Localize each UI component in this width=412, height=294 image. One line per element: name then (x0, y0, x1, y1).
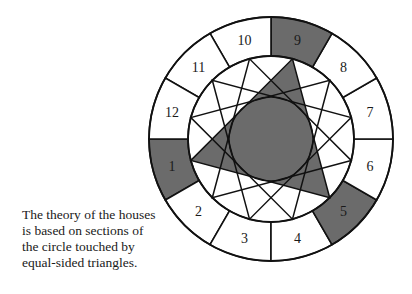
house-label-9: 9 (294, 33, 301, 48)
house-label-7: 7 (367, 105, 374, 120)
caption-line: is based on sections of (22, 223, 187, 239)
house-label-1: 1 (168, 159, 175, 174)
house-label-11: 11 (192, 60, 205, 75)
house-label-6: 6 (367, 159, 374, 174)
caption: The theory of the houses is based on sec… (22, 207, 187, 271)
house-label-10: 10 (237, 33, 251, 48)
house-label-3: 3 (241, 231, 248, 246)
caption-line: The theory of the houses (22, 207, 187, 223)
house-label-12: 12 (165, 105, 179, 120)
house-label-8: 8 (340, 60, 347, 75)
caption-line: equal-sided triangles. (22, 255, 187, 271)
house-label-2: 2 (195, 204, 202, 219)
house-label-4: 4 (294, 231, 301, 246)
house-label-5: 5 (340, 204, 347, 219)
caption-line: the circle touched by (22, 239, 187, 255)
